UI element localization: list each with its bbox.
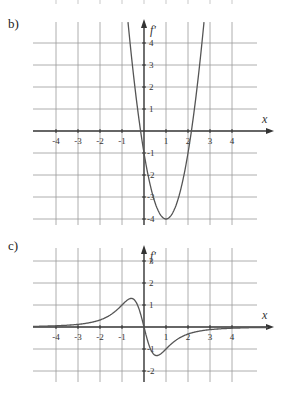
y-tick-label: -1: [147, 148, 155, 158]
x-tick-label: 1: [164, 136, 169, 146]
y-tick-label: 3: [149, 60, 154, 70]
x-tick-label: -3: [74, 136, 82, 146]
x-tick-label: -2: [96, 136, 104, 146]
x-tick-label: -1: [118, 332, 126, 342]
graph-b: -4-3-2-112344321-1-2-3-4f'x: [33, 19, 274, 225]
x-axis-arrow-icon: [266, 128, 274, 134]
x-tick-label: -2: [96, 332, 104, 342]
x-tick-label: -3: [74, 332, 82, 342]
y-tick-label: -4: [147, 214, 155, 224]
y-tick-label: 2: [149, 82, 154, 92]
x-tick-label: 4: [230, 332, 235, 342]
y-tick-label: 4: [149, 38, 154, 48]
y-tick-label: 1: [149, 300, 154, 310]
y-tick-label: -2: [147, 366, 155, 376]
x-tick-label: 4: [230, 136, 235, 146]
y-axis-label: f': [150, 249, 156, 263]
y-axis-label: f': [150, 23, 156, 37]
y-axis-arrow-icon: [141, 19, 147, 28]
function-graphs: -4-3-2-112344321-1-2-3-4f'x-4-3-2-112343…: [0, 0, 282, 393]
graph-c: -4-3-2-11234321-1-2f'x: [33, 245, 274, 382]
x-axis-label: x: [261, 308, 268, 322]
x-tick-label: -4: [52, 332, 60, 342]
x-tick-label: -4: [52, 136, 60, 146]
x-tick-label: 1: [164, 332, 169, 342]
y-axis-arrow-icon: [141, 245, 147, 254]
y-tick-label: 2: [149, 278, 154, 288]
x-tick-label: -1: [118, 136, 126, 146]
x-tick-label: 3: [208, 332, 213, 342]
x-axis-label: x: [261, 112, 268, 126]
x-tick-label: 3: [208, 136, 213, 146]
y-tick-label: 1: [149, 104, 154, 114]
